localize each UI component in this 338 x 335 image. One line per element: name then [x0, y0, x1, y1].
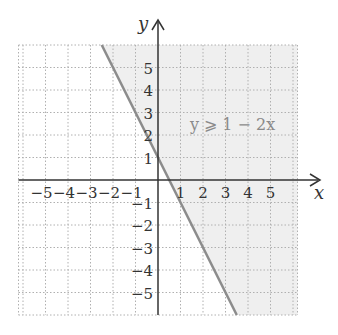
x-tick-label: −5: [30, 184, 52, 202]
y-tick-label: −1: [131, 195, 153, 213]
x-tick-label: −4: [53, 184, 75, 202]
x-tick-label: 5: [266, 184, 276, 202]
inequality-annotation: y ⩾ 1 − 2x: [189, 115, 275, 134]
x-tick-label: 1: [176, 184, 186, 202]
inequality-graph: −5−4−3−2−112345 54321−1−2−3−4−5 x y y ⩾ …: [0, 0, 338, 335]
y-tick-label: −5: [131, 285, 153, 303]
y-tick-label: 5: [143, 60, 153, 78]
x-tick-label: 3: [221, 184, 231, 202]
y-tick-label: 4: [143, 82, 153, 100]
x-tick-label: −3: [75, 184, 97, 202]
x-tick-label: −2: [98, 184, 120, 202]
y-tick-label: −2: [131, 217, 153, 235]
x-tick-label: 2: [198, 184, 208, 202]
y-tick-label: 3: [143, 105, 153, 123]
y-tick-label: 2: [143, 127, 153, 145]
y-tick-label: 1: [143, 150, 153, 168]
y-tick-label: −4: [131, 262, 153, 280]
x-tick-label: 4: [243, 184, 253, 202]
y-axis-label: y: [137, 13, 149, 34]
y-tick-label: −3: [131, 240, 153, 258]
x-axis-label: x: [314, 182, 324, 203]
